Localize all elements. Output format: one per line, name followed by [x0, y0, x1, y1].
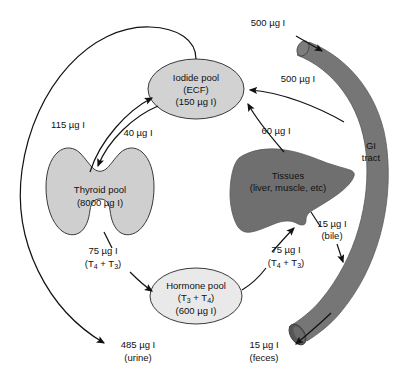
flow-gi-to-iodide-arrow — [250, 90, 344, 122]
tissues-label-line2: (liver, muscle, etc) — [250, 182, 327, 193]
flow-hormone-to-tissues-arrow-tail — [242, 268, 266, 290]
h2t-pre: (T — [268, 257, 277, 268]
iodide-pool-label-line3: (150 µg I) — [176, 96, 217, 107]
flow-label-thyroid-to-iodide: 115 µg I — [51, 119, 85, 130]
flow-label-thyroid-to-hormone-value: 75 µg I — [88, 245, 117, 256]
hormone-pool-formula-mid: + T — [191, 292, 208, 303]
iodide-pool-label-line2: (ECF) — [183, 84, 208, 95]
flow-label-tissues-to-iodide: 60 µg I — [261, 125, 290, 136]
hormone-pool-label-line1: Hormone pool — [166, 280, 226, 291]
hormone-pool-formula-pre: (T — [178, 292, 187, 303]
iodine-cycle-diagram: GI tract Tissues (liver, muscle, etc) Th… — [0, 0, 413, 383]
flow-label-urine-note: (urine) — [124, 352, 151, 363]
hormone-pool-label-line3: (600 µg I) — [176, 305, 217, 316]
thyroid-pool-label-line2: (8000 µg I) — [77, 197, 123, 208]
flow-tissues-to-gi-bile-arrow — [337, 244, 343, 262]
flow-label-bile-value: 15 µg I — [317, 218, 346, 229]
flow-label-urine-value: 485 µg I — [121, 339, 156, 350]
t2h-pre: (T — [85, 258, 94, 269]
h2t-post: ) — [301, 257, 304, 268]
iodide-pool-label-line1: Iodide pool — [173, 72, 219, 83]
t2h-post: ) — [118, 258, 121, 269]
flow-label-feces-note: (feces) — [249, 352, 278, 363]
gi-tract-label-line1: GI — [366, 140, 376, 151]
thyroid-pool-label-line1: Thyroid pool — [74, 184, 126, 195]
flow-label-iodide-to-thyroid: 40 µg I — [123, 127, 152, 138]
h2t-mid: + T — [281, 257, 298, 268]
t2h-mid: + T — [98, 258, 115, 269]
flow-thyroid-to-hormone-arrow-head — [130, 272, 152, 291]
flow-label-hormone-to-tissues-value: 75 µg I — [271, 244, 300, 255]
gi-tract-label-line2: tract — [362, 152, 381, 163]
flow-label-thyroid-to-hormone-formula: (T4 + T3) — [85, 258, 121, 270]
flow-label-gi-to-iodide: 500 µg I — [281, 73, 316, 84]
flow-label-bile-note: (bile) — [321, 230, 342, 241]
hormone-pool-formula-post: ) — [211, 292, 214, 303]
tissues-label-line1: Tissues — [272, 170, 305, 181]
flow-label-gi-intake: 500 µg I — [251, 17, 286, 28]
diagram-canvas: GI tract Tissues (liver, muscle, etc) Th… — [0, 0, 413, 383]
flow-label-feces-value: 15 µg I — [249, 339, 278, 350]
flow-label-hormone-to-tissues-formula: (T4 + T3) — [268, 257, 304, 269]
